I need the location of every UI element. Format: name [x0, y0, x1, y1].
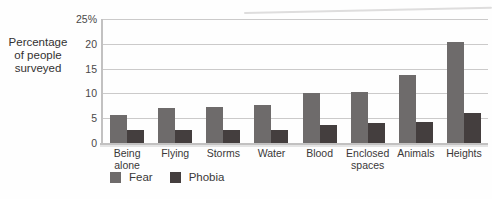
bar-fear-enclosed-spaces — [351, 92, 368, 143]
bar-group-water — [247, 19, 295, 143]
x-category-label-heights: Heights — [440, 148, 488, 171]
bar-phobia-flying — [175, 130, 192, 143]
bar-phobia-heights — [464, 113, 481, 143]
bar-fear-storms — [206, 107, 223, 143]
scan-edge-line — [244, 7, 492, 14]
bar-group-animals — [392, 19, 440, 143]
bar-fear-flying — [158, 108, 175, 143]
bar-group-flying — [151, 19, 199, 143]
bar-fear-heights — [447, 42, 464, 143]
legend-item-phobia: Phobia — [170, 171, 225, 183]
y-tick-label-0: 0 — [59, 137, 97, 149]
fear-color-swatch — [110, 172, 121, 183]
bar-phobia-being-alone — [127, 130, 144, 143]
bar-phobia-enclosed-spaces — [368, 123, 385, 143]
bar-phobia-water — [271, 130, 288, 143]
bar-fear-water — [254, 105, 271, 143]
bar-group-heights — [440, 19, 488, 143]
y-tick-label-15: 15 — [59, 63, 97, 75]
bar-phobia-animals — [416, 122, 433, 143]
y-tick-label-25: 25% — [59, 13, 97, 25]
y-tick-label-20: 20 — [59, 38, 97, 50]
legend: Fear Phobia — [110, 171, 224, 183]
x-category-label-animals: Animals — [392, 148, 440, 171]
x-category-label-flying: Flying — [151, 148, 199, 171]
bar-fear-being-alone — [110, 115, 127, 143]
legend-label-phobia: Phobia — [189, 171, 225, 183]
x-category-label-blood: Blood — [296, 148, 344, 171]
x-category-label-being-alone: Being alone — [103, 148, 151, 171]
y-tick-label-5: 5 — [59, 112, 97, 124]
bar-group-storms — [199, 19, 247, 143]
x-category-label-water: Water — [247, 148, 295, 171]
bar-group-enclosed-spaces — [344, 19, 392, 143]
legend-item-fear: Fear — [110, 171, 153, 183]
x-axis-category-labels: Being aloneFlyingStormsWaterBloodEnclose… — [103, 148, 488, 171]
x-category-label-storms: Storms — [199, 148, 247, 171]
bar-group-blood — [296, 19, 344, 143]
bar-phobia-storms — [223, 130, 240, 143]
x-category-label-enclosed-spaces: Enclosed spaces — [344, 148, 392, 171]
bar-fear-blood — [303, 93, 320, 143]
y-tick-label-10: 10 — [59, 87, 97, 99]
bar-fear-animals — [399, 75, 416, 143]
bar-phobia-blood — [320, 125, 337, 143]
bar-group-being-alone — [103, 19, 151, 143]
fear-phobia-bar-chart: Percentage of people surveyed 25%2015105… — [0, 0, 492, 199]
plot-area — [103, 19, 488, 143]
legend-label-fear: Fear — [129, 171, 153, 183]
x-axis-line — [100, 143, 488, 145]
phobia-color-swatch — [170, 172, 181, 183]
